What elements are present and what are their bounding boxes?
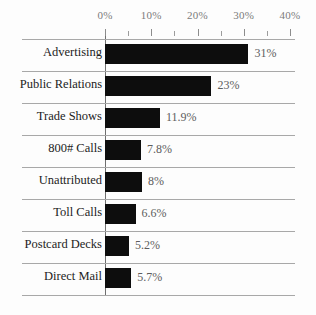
bar xyxy=(105,108,160,128)
bar-row: Advertising31% xyxy=(0,39,316,71)
bar-value-label: 7.8% xyxy=(147,142,172,157)
bar-category-label: Public Relations xyxy=(0,77,102,92)
bar xyxy=(105,172,142,192)
bar-value-label: 6.6% xyxy=(142,206,167,221)
axis-tick-label: 0% xyxy=(97,9,112,21)
axis-tick-major xyxy=(244,29,245,36)
bar-row: 800# Calls7.8% xyxy=(0,135,316,167)
axis-tick-label: 20% xyxy=(187,9,208,21)
bar-row: Toll Calls6.6% xyxy=(0,199,316,231)
bar-value-label: 5.7% xyxy=(137,270,162,285)
axis-tick-major xyxy=(290,29,291,36)
bar-value-label: 8% xyxy=(148,174,164,189)
axis-tick-major xyxy=(105,29,106,36)
bar-category-label: Postcard Decks xyxy=(0,237,102,252)
bar xyxy=(105,76,211,96)
bar xyxy=(105,236,129,256)
axis-tick-major xyxy=(198,29,199,36)
bar-row: Postcard Decks5.2% xyxy=(0,231,316,263)
bar-category-label: Toll Calls xyxy=(0,205,102,220)
bar xyxy=(105,140,141,160)
bar-value-label: 11.9% xyxy=(166,110,197,125)
bar-category-label: Advertising xyxy=(0,45,102,60)
bar xyxy=(105,268,131,288)
chart-x-axis: 0%10%20%30%40% xyxy=(0,0,316,36)
bar-row: Public Relations23% xyxy=(0,71,316,103)
grid-line xyxy=(22,295,295,296)
bar-value-label: 5.2% xyxy=(135,238,160,253)
axis-tick-label: 30% xyxy=(233,9,254,21)
bar-row: Trade Shows11.9% xyxy=(0,103,316,135)
bar xyxy=(105,204,136,224)
bar xyxy=(105,44,248,64)
bar-chart: 0%10%20%30%40% Advertising31%Public Rela… xyxy=(0,0,316,315)
bar-category-label: Trade Shows xyxy=(0,109,102,124)
bar-row: Direct Mail5.7% xyxy=(0,263,316,295)
bar-category-label: Unattributed xyxy=(0,173,102,188)
bar-row: Unattributed8% xyxy=(0,167,316,199)
axis-tick-label: 10% xyxy=(141,9,162,21)
bar-value-label: 31% xyxy=(254,46,276,61)
bar-value-label: 23% xyxy=(217,78,239,93)
axis-tick-major xyxy=(151,29,152,36)
axis-tick-label: 40% xyxy=(280,9,301,21)
bar-category-label: Direct Mail xyxy=(0,269,102,284)
bar-category-label: 800# Calls xyxy=(0,141,102,156)
chart-plot-area: Advertising31%Public Relations23%Trade S… xyxy=(0,36,316,315)
